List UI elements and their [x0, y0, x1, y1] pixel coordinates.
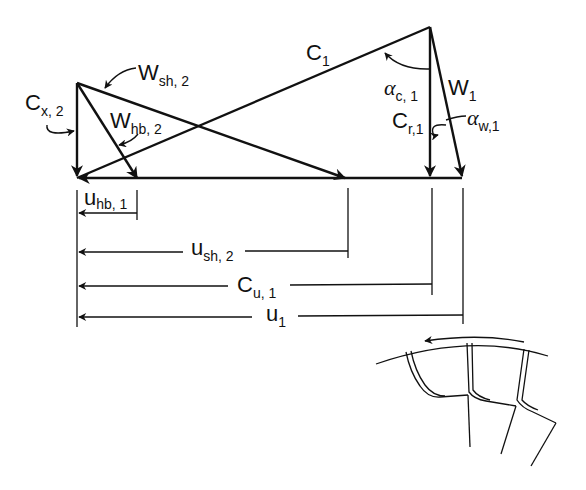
impeller-blade	[406, 352, 468, 397]
label-uhb1: uhb, 1	[84, 185, 128, 212]
arc-alpha-w1	[433, 125, 447, 136]
rotation-arrow	[425, 337, 524, 342]
label-whb2: Whb, 2	[110, 108, 162, 137]
impeller-blade	[517, 349, 556, 423]
label-c1: C1	[306, 40, 330, 69]
label-alpha-w1: αw,1	[467, 105, 500, 134]
arc-alpha-c1	[385, 53, 430, 69]
impeller-blade-edge	[468, 395, 470, 447]
impeller-sketch	[376, 337, 556, 466]
impeller-blade-edge	[531, 423, 556, 466]
vector-w1	[430, 27, 462, 176]
impeller-blade	[467, 343, 516, 406]
velocity-triangle-diagram: C1 αc, 1 W1 Cr,1 αw,1 Wsh, 2 Whb, 2 Cx, …	[0, 0, 586, 490]
impeller-blade-edge	[501, 406, 516, 454]
label-alpha-c1: αc, 1	[384, 75, 418, 104]
label-cr1: Cr,1	[392, 108, 424, 137]
label-w1: W1	[448, 75, 477, 104]
dim-u1-right	[298, 315, 463, 316]
impeller-blade	[472, 343, 490, 400]
label-cu1: Cu, 1	[237, 272, 276, 301]
impeller-blade	[522, 350, 538, 410]
leader-wsh2	[105, 68, 136, 88]
leader-cx2	[47, 125, 74, 133]
label-u1: u1	[266, 301, 286, 330]
label-wsh2: Wsh, 2	[138, 60, 189, 89]
label-ush2: ush, 2	[191, 235, 234, 264]
impeller-blade	[411, 351, 445, 396]
dim-cu1-right	[290, 284, 432, 285]
label-cx2: Cx, 2	[25, 90, 64, 119]
